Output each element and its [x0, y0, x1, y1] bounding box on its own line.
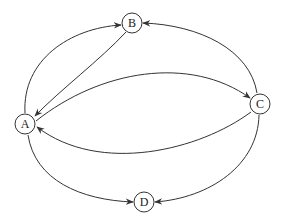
node-b-label: B: [128, 16, 136, 30]
node-d: D: [134, 192, 154, 212]
edge-b-to-a: [35, 32, 126, 116]
edge-c-to-a: [37, 112, 251, 153]
edge-c-to-b: [143, 23, 257, 93]
node-a: A: [15, 114, 35, 134]
node-b: B: [122, 13, 142, 33]
edge-a-to-d: [28, 135, 133, 202]
node-a-label: A: [21, 117, 30, 131]
graph-diagram: A B C D: [0, 0, 281, 223]
node-d-label: D: [140, 195, 149, 209]
edge-a-to-b: [25, 25, 121, 113]
edge-c-to-d: [155, 115, 259, 202]
edge-a-to-c: [36, 73, 250, 121]
node-c-label: C: [256, 97, 264, 111]
node-c: C: [250, 94, 270, 114]
